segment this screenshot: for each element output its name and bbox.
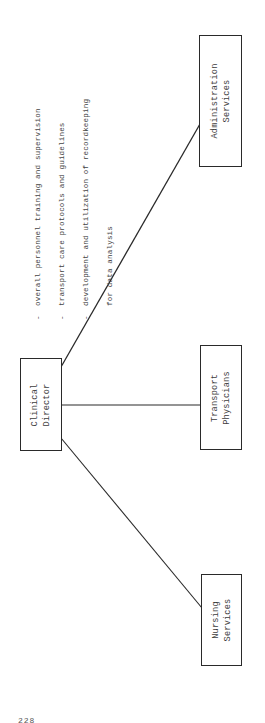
responsibilities-note: -overall personnel training and supervis… [18, 99, 122, 320]
responsibility-text: development and utilization of recordkee… [82, 99, 90, 306]
clinical-director-box: Clinical Director [20, 358, 62, 451]
transport-physicians-box: Transport Physicians [200, 345, 242, 450]
responsibility-item: -overall personnel training and supervis… [34, 99, 42, 320]
responsibility-item: for data analysis [106, 99, 114, 320]
administration-services-label: Administration Services [209, 64, 233, 139]
responsibility-text: overall personnel training and supervisi… [34, 108, 42, 306]
page-number: 228 [18, 716, 35, 723]
responsibility-text: for data analysis [106, 226, 114, 306]
clinical-director-label: Clinical Director [29, 383, 53, 426]
nursing-services-box: Nursing Services [201, 574, 242, 666]
nursing-services-label: Nursing Services [210, 599, 234, 642]
responsibility-item: -development and utilization of recordke… [82, 99, 90, 320]
transport-physicians-label: Transport Physicians [209, 371, 233, 425]
responsibility-item: -transport care protocols and guidelines [58, 99, 66, 320]
administration-services-box: Administration Services [199, 35, 242, 167]
edge-director-to-nursing [61, 438, 202, 608]
responsibility-text: transport care protocols and guidelines [58, 122, 66, 306]
